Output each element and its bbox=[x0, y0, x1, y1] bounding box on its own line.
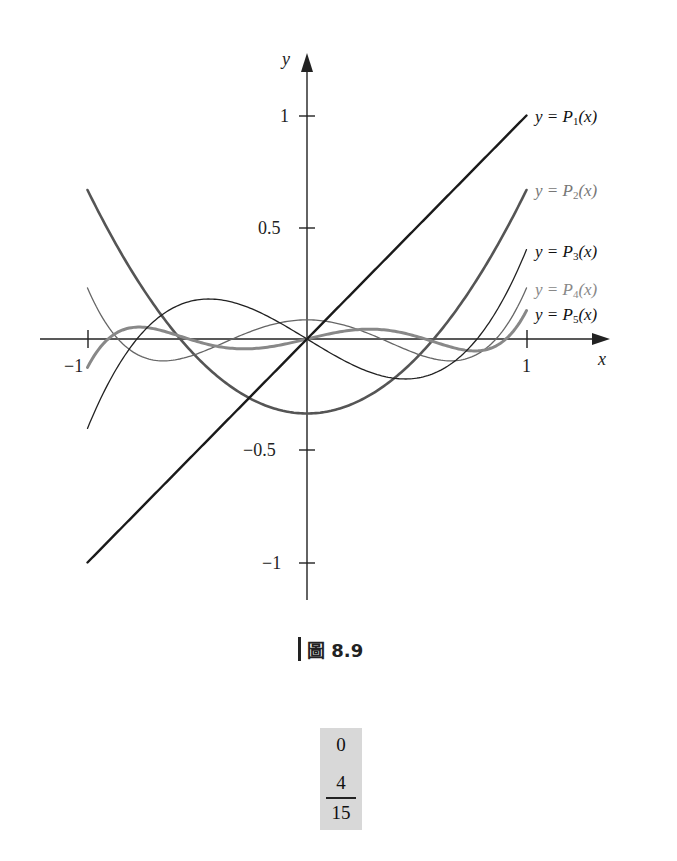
caption-text: 圖 8.9 bbox=[307, 636, 363, 662]
curve-label-p4: y = P4(x) bbox=[535, 281, 597, 300]
curve-label-p2: y = P2(x) bbox=[535, 182, 597, 201]
y-tick-label-0.5: 0.5 bbox=[258, 219, 281, 237]
curve-label-p2-suffix: (x) bbox=[578, 181, 597, 200]
x-tick-label-1: 1 bbox=[522, 357, 531, 375]
curve-label-p5: y = P5(x) bbox=[535, 306, 597, 325]
y-axis-label: y bbox=[282, 50, 290, 68]
x-axis-label-text: x bbox=[598, 349, 606, 369]
caption-bar bbox=[298, 637, 301, 661]
curve-label-p1: y = P1(x) bbox=[535, 108, 597, 127]
curve-label-p4-prefix: y = P bbox=[535, 280, 573, 299]
y-tick-label-neg1: −1 bbox=[262, 554, 281, 572]
curve-label-p2-prefix: y = P bbox=[535, 181, 573, 200]
curve-label-p3-prefix: y = P bbox=[535, 242, 573, 261]
figure-caption: 圖 8.9 bbox=[298, 636, 363, 662]
curve-label-p5-prefix: y = P bbox=[535, 305, 573, 324]
curve-label-p1-suffix: (x) bbox=[578, 107, 597, 126]
x-tick-label-neg1: −1 bbox=[64, 357, 83, 375]
answer-numerator: 4 bbox=[320, 772, 362, 794]
y-tick-label-1: 1 bbox=[280, 107, 289, 125]
answer-box: 0 4 15 bbox=[320, 728, 362, 830]
y-axis-label-text: y bbox=[282, 49, 290, 69]
curve-label-p3: y = P3(x) bbox=[535, 243, 597, 262]
curve-label-p5-suffix: (x) bbox=[578, 305, 597, 324]
curve-label-p1-prefix: y = P bbox=[535, 107, 573, 126]
curve-label-p3-suffix: (x) bbox=[578, 242, 597, 261]
fraction-bar bbox=[326, 797, 356, 799]
axes bbox=[40, 53, 610, 600]
curve-label-p4-suffix: (x) bbox=[578, 280, 597, 299]
y-axis-arrow-icon bbox=[301, 53, 313, 72]
answer-denominator: 15 bbox=[320, 802, 362, 824]
x-axis-label: x bbox=[598, 350, 606, 368]
y-tick-label-neg0.5: −0.5 bbox=[243, 441, 276, 459]
x-axis-arrow-icon bbox=[592, 333, 610, 345]
answer-value-top: 0 bbox=[320, 734, 362, 756]
